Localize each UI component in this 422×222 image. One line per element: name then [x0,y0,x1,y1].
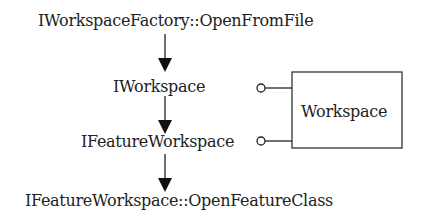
node-open-from-file: IWorkspaceFactory::OpenFromFile [38,12,313,30]
node-ifeatureworkspace: IFeatureWorkspace [81,133,234,151]
node-open-feature-class: IFeatureWorkspace::OpenFeatureClass [25,192,333,210]
node-iworkspace: IWorkspace [113,78,205,96]
lollipop-iworkspace-icon [257,84,265,92]
lollipop-ifeatureworkspace-icon [257,137,265,145]
workspace-class-label: Workspace [301,103,387,121]
arrowhead-1 [158,58,172,72]
arrowhead-3 [158,178,172,192]
